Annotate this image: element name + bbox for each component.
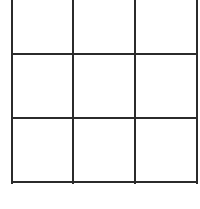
grid-line-vertical-right <box>196 0 198 184</box>
cell-0-1[interactable] <box>74 0 134 53</box>
cell-0-0[interactable] <box>13 0 72 53</box>
tic-tac-toe-board <box>0 0 200 209</box>
cell-1-2[interactable] <box>136 55 196 117</box>
cell-1-1[interactable] <box>74 55 134 117</box>
cell-0-2[interactable] <box>136 0 196 53</box>
cell-2-2[interactable] <box>136 119 196 181</box>
cell-2-0[interactable] <box>13 119 72 181</box>
grid-line-horizontal-bottom <box>11 181 198 183</box>
cell-2-1[interactable] <box>74 119 134 181</box>
cell-1-0[interactable] <box>13 55 72 117</box>
